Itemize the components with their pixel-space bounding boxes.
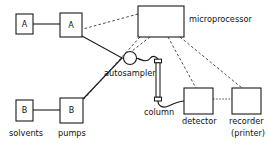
microprocessor-caption: microprocessor [189, 14, 252, 24]
recorder-node[interactable] [232, 88, 261, 114]
microprocessor-node[interactable] [138, 6, 184, 37]
diagram-canvas: A B A B [0, 0, 269, 146]
solvent-b-label: B [22, 106, 28, 115]
recorder-caption: recorder [229, 116, 264, 126]
pump-a-label: A [68, 21, 74, 30]
detector-box[interactable] [184, 88, 213, 114]
pump-a-node[interactable]: A [60, 13, 82, 37]
dashed-link-microprocessor-recorder [180, 37, 242, 88]
dashed-link-microprocessor-autosampler [132, 37, 150, 51]
column-bottom-fitting [155, 97, 162, 101]
autosampler-node[interactable] [124, 52, 137, 65]
solid-link-pump-b-autosampler [83, 58, 122, 99]
column-tube-body[interactable] [156, 63, 160, 97]
solvent-b-node[interactable]: B [16, 100, 33, 121]
column-top-fitting [155, 59, 162, 63]
dashed-link-microprocessor-pump-a [83, 14, 138, 29]
autosampler-circle[interactable] [124, 52, 137, 65]
microprocessor-box[interactable] [138, 6, 184, 37]
recorder-box[interactable] [232, 88, 261, 114]
solvent-a-label: A [22, 20, 28, 29]
pumps-caption: pumps [58, 128, 86, 138]
column-node[interactable] [155, 59, 162, 101]
solid-link-pump-a-autosampler [82, 36, 124, 58]
pump-b-node[interactable]: B [60, 98, 83, 123]
pump-b-label: B [69, 106, 75, 115]
column-caption: column [144, 107, 174, 117]
solvent-a-node[interactable]: A [16, 14, 33, 34]
detector-caption: detector [182, 116, 217, 126]
detector-node[interactable] [184, 88, 213, 114]
recorder-sub-caption: (printer) [231, 128, 265, 138]
solvents-caption: solvents [9, 128, 43, 138]
hplc-block-diagram: A B A B [0, 0, 269, 146]
dashed-link-microprocessor-detector [168, 37, 196, 88]
autosampler-caption: autosampler [104, 68, 156, 78]
